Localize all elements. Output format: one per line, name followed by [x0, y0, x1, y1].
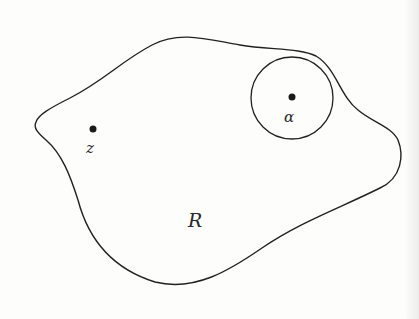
- point-z-dot: [90, 126, 97, 133]
- z-label: z: [85, 139, 94, 157]
- region-boundary: [35, 37, 401, 284]
- point-alpha-dot: [289, 94, 296, 101]
- region-diagram: α z R: [0, 0, 419, 319]
- alpha-label: α: [284, 108, 294, 126]
- region-label: R: [187, 209, 202, 231]
